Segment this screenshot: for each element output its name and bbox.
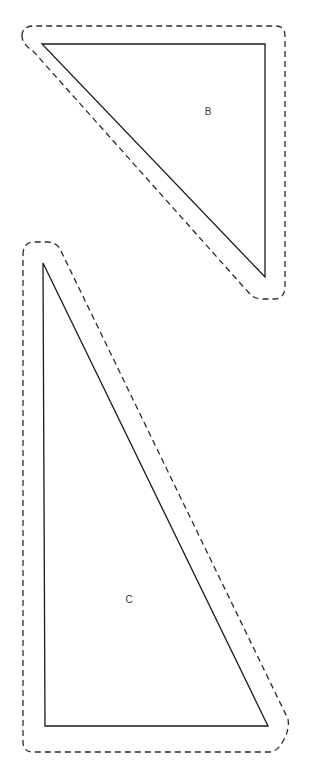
seam-allowance-outline-c xyxy=(23,242,288,752)
triangle-c-label: C xyxy=(125,594,132,605)
shape-group-c: C xyxy=(23,242,288,752)
triangle-c-outline xyxy=(43,263,268,726)
triangle-b-label: B xyxy=(205,106,212,117)
pattern-diagram: B C xyxy=(0,0,309,774)
seam-allowance-outline-b xyxy=(22,26,285,299)
pattern-sheet: B C xyxy=(0,0,309,774)
shape-group-b: B xyxy=(22,26,285,299)
triangle-b-outline xyxy=(42,44,265,277)
